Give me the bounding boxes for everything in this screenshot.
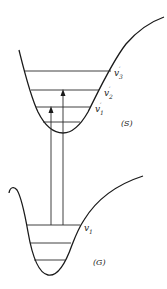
label-v1: v1 (84, 223, 93, 235)
label-lower-state: (G) (93, 258, 106, 267)
label-v2-prime: v2′ (104, 85, 113, 100)
label-upper-state: (S) (121, 119, 133, 128)
lower-potential-well (9, 176, 143, 275)
lower-potential-curve (9, 176, 143, 275)
label-v1-prime: v1′ (95, 101, 104, 116)
label-v3-prime: v3′ (114, 65, 123, 80)
energy-level-diagram: v3′ v2′ v1′ (S) v1 (G) (0, 0, 167, 289)
transition-arrows (49, 89, 66, 225)
upper-potential-well (19, 17, 164, 133)
upper-potential-curve (19, 17, 164, 133)
